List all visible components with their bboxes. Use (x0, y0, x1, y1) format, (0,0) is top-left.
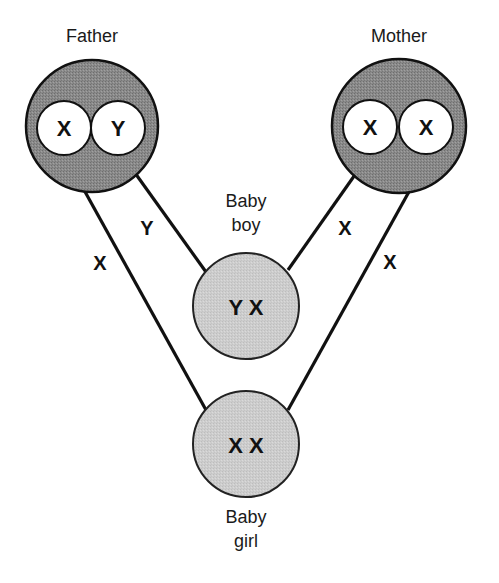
baby-girl-genotype: X X (228, 433, 264, 458)
edge-label-mother-x1: X (338, 217, 352, 239)
baby-boy-genotype: Y X (228, 295, 263, 320)
baby-girl-label-line1: Baby (225, 507, 266, 527)
father-chromosome-x: X (57, 116, 72, 141)
mother-label: Mother (371, 26, 427, 46)
baby-boy-label-line2: boy (231, 215, 260, 235)
mother-chromosome-x1: X (363, 115, 378, 140)
edge-label-father-y: Y (140, 217, 154, 239)
baby-boy: Baby boy Y X (193, 191, 299, 359)
father-chromosome-y: Y (111, 116, 126, 141)
father-label: Father (66, 26, 118, 46)
inheritance-diagram: Father Mother X Y X X Y X X X Baby boy Y… (0, 0, 499, 583)
mother-cell: X X (332, 59, 466, 193)
baby-boy-label-line1: Baby (225, 191, 266, 211)
father-cell: X Y (26, 60, 158, 192)
baby-girl-label-line2: girl (234, 531, 258, 551)
baby-girl: X X Baby girl (193, 391, 299, 551)
edge-label-mother-x2: X (383, 251, 397, 273)
mother-chromosome-x2: X (419, 115, 434, 140)
edge-label-father-x: X (93, 252, 107, 274)
